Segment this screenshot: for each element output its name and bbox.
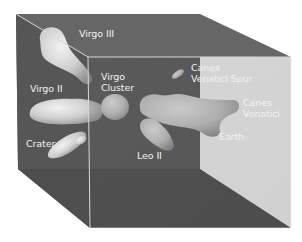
box-illustration [0,0,302,242]
label-virgo-ii: Virgo II [30,84,62,95]
label-canes-venatici: Canes Venatici [243,98,280,119]
label-virgo-cluster: Virgo Cluster [101,72,134,93]
label-leo-ii: Leo II [137,151,162,162]
supercluster-box-diagram: Virgo III Virgo II Virgo Cluster Canes V… [0,0,302,242]
label-earth: Earth [219,132,244,143]
label-virgo-iii: Virgo III [79,29,114,40]
label-crater: Crater [26,139,55,150]
label-canes-venatici-spur: Canes Venatici Spur [191,63,252,84]
